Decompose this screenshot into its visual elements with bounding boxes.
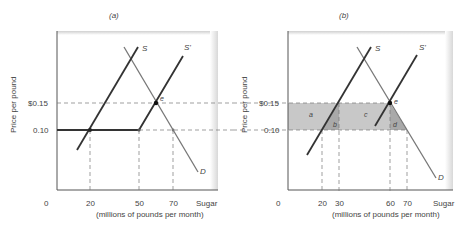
x-unit-a: (millions of pounds per month) <box>96 210 204 219</box>
supply-curve-a <box>77 47 138 150</box>
x-tick-a-20: 20 <box>86 199 95 208</box>
y-tick-a-high: $0.15 <box>28 99 49 108</box>
label-area-a: a <box>309 111 313 118</box>
y-tick-a-low: 0.10 <box>33 126 49 135</box>
panel-b-title: (b) <box>339 11 349 20</box>
y-label-a: Price per pound <box>9 77 18 133</box>
panel-a: (a) S S' D e Price per pound $0.15 0.10 … <box>9 11 233 219</box>
y-tick-b-high: $0.15 <box>259 99 280 108</box>
x-tick-a-70: 70 <box>169 199 178 208</box>
panel-a-title: (a) <box>109 11 119 20</box>
label-e-b: e <box>394 98 398 105</box>
shaded-region <box>288 103 407 130</box>
label-area-b: b <box>333 121 337 128</box>
x-tick-b-70: 70 <box>403 199 412 208</box>
chart-canvas: (a) S S' D e Price per pound $0.15 0.10 … <box>0 0 466 229</box>
label-s-b: S <box>375 44 381 53</box>
x-tick-a-50: 50 <box>135 199 144 208</box>
panel-b: (b) S S' D e a b c d Price per pound $0.… <box>233 11 455 219</box>
label-e-a: e <box>160 95 164 102</box>
y-label-b: Price per pound <box>240 77 249 133</box>
label-area-c: c <box>364 111 368 118</box>
x-tick-b-60: 60 <box>386 199 395 208</box>
demand-curve-a <box>124 47 198 172</box>
x-tick-b-20: 20 <box>318 199 327 208</box>
label-d-a: D <box>200 167 206 176</box>
supply-curve-a-prime <box>57 56 183 130</box>
label-d-b: D <box>438 173 444 182</box>
x-origin-a: 0 <box>44 199 49 208</box>
x-name-b: Sugar <box>433 199 455 208</box>
label-s-a: S <box>142 44 148 53</box>
label-s-prime-b: S' <box>419 43 426 52</box>
y-tick-b-low: 0.10 <box>264 126 280 135</box>
x-name-a: Sugar <box>196 199 218 208</box>
x-origin-b: 0 <box>276 199 281 208</box>
label-s-prime-a: S' <box>184 43 191 52</box>
x-unit-b: (millions of pounds per month) <box>332 210 440 219</box>
x-tick-b-30: 30 <box>335 199 344 208</box>
